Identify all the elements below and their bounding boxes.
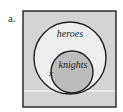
knights-circle [51, 51, 93, 93]
heroes-label: heroes [57, 28, 83, 39]
knights-label: knights [59, 59, 88, 70]
x-mark: x [48, 68, 53, 78]
venn-diagram: heroes knights x [0, 0, 123, 112]
